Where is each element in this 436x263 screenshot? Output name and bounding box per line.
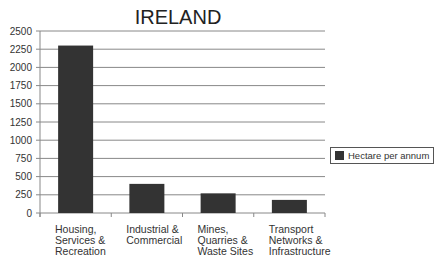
legend: Hectare per annum xyxy=(330,147,434,164)
legend-label: Hectare per annum xyxy=(348,150,429,161)
bar xyxy=(129,184,164,213)
y-tick-label: 1000 xyxy=(10,135,33,146)
y-tick-label: 0 xyxy=(26,208,32,219)
y-tick-label: 1500 xyxy=(10,98,33,109)
bar-chart: 02505007501000125015001750200022502500Ho… xyxy=(0,0,436,263)
y-tick-label: 250 xyxy=(15,189,32,200)
y-tick-label: 2000 xyxy=(10,62,33,73)
y-tick-label: 2250 xyxy=(10,44,33,55)
y-tick-label: 500 xyxy=(15,171,32,182)
legend-swatch xyxy=(335,151,344,160)
y-tick-label: 2500 xyxy=(10,26,33,37)
x-tick-label: Recreation xyxy=(55,245,106,257)
chart-root: IRELAND 02505007501000125015001750200022… xyxy=(0,0,436,263)
x-tick-label: Waste Sites xyxy=(198,245,254,257)
bar xyxy=(201,193,236,213)
y-tick-label: 1250 xyxy=(10,117,33,128)
bar xyxy=(272,200,307,213)
bar xyxy=(58,46,93,213)
x-tick-label: Infrastructure xyxy=(269,245,331,257)
x-tick-label: Commercial xyxy=(126,234,182,246)
y-tick-label: 750 xyxy=(15,153,32,164)
y-tick-label: 1750 xyxy=(10,80,33,91)
